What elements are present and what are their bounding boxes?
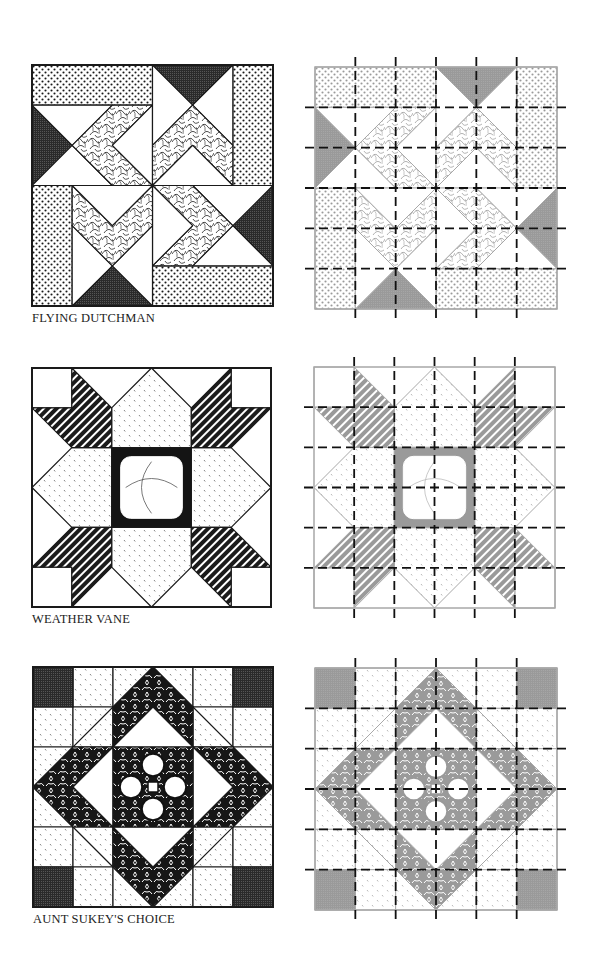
aunt-sukeys-choice-block [33, 667, 273, 907]
aunt-sukeys-choice-caption: AUNT SUKEY'S CHOICE [33, 912, 175, 927]
aunt-sukeys-choice-illustration [33, 667, 273, 907]
weather-vane-illustration [32, 368, 271, 607]
flying-dutchman-grid-diagram [315, 67, 557, 309]
aunt-sukeys-choice-cutting-diagram [315, 668, 557, 910]
weather-vane-caption: WEATHER VANE [32, 612, 130, 627]
weather-vane-cutting-diagram [314, 367, 555, 608]
flying-dutchman-block [32, 65, 273, 306]
aunt-sukeys-choice-grid-diagram [315, 668, 557, 910]
flying-dutchman-caption: FLYING DUTCHMAN [32, 311, 155, 326]
flying-dutchman-cutting-diagram [315, 67, 557, 309]
weather-vane-grid-diagram [314, 367, 555, 608]
weather-vane-block [32, 368, 271, 607]
flying-dutchman-illustration [32, 65, 273, 306]
